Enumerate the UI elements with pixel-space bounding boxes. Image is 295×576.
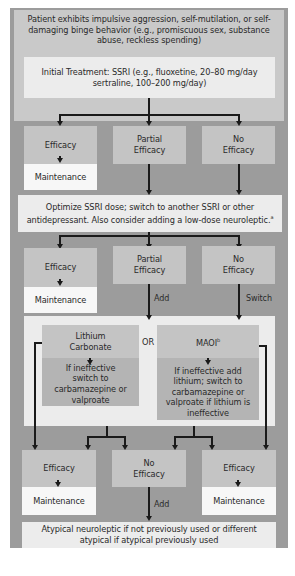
- no-efficacy-label: No Efficacy: [218, 254, 259, 275]
- connector: [59, 235, 239, 237]
- maintenance-label: Maintenance: [35, 172, 87, 183]
- arrow-icon: [87, 360, 93, 365]
- connector: [87, 436, 125, 438]
- connector: [148, 164, 150, 190]
- switch-label: Switch: [246, 294, 272, 305]
- add-label: Add: [154, 500, 169, 511]
- row1-maintenance-box: Maintenance: [24, 164, 97, 190]
- final-box: Atypical neuroleptic if not previously u…: [22, 522, 276, 548]
- maintenance-label: Maintenance: [35, 295, 87, 306]
- partial-efficacy-label: Partial Efficacy: [123, 254, 176, 275]
- arrow-icon: [146, 315, 152, 320]
- maoi-followup-box: If ineffective add lithium; switch to ca…: [157, 358, 259, 420]
- connector: [106, 426, 108, 436]
- lithium-label: Lithium Carbonate: [42, 331, 139, 352]
- optimize-text: Optimize SSRI dose; switch to another SS…: [27, 202, 271, 225]
- efficacy-label: Efficacy: [223, 463, 254, 474]
- connector: [148, 487, 150, 517]
- efficacy-label: Efficacy: [43, 463, 74, 474]
- lithium-box: Lithium Carbonate: [42, 325, 139, 358]
- maoi-box: MAOIb: [157, 325, 259, 358]
- initial-treatment-text: Initial Treatment: SSRI (e.g., fluoxetin…: [36, 67, 263, 88]
- efficacy-label: Efficacy: [45, 262, 76, 273]
- connector: [238, 164, 240, 190]
- row3-maintenance-left-box: Maintenance: [22, 487, 96, 515]
- efficacy-label: Efficacy: [45, 140, 76, 151]
- final-text: Atypical neuroleptic if not previously u…: [30, 524, 268, 545]
- connector: [59, 114, 239, 116]
- footnote-a: a: [270, 214, 273, 220]
- row2-partial-box: Partial Efficacy: [113, 246, 186, 284]
- lithium-followup-box: If ineffective switch to carbamazepine o…: [42, 358, 139, 406]
- lithium-followup-text: If ineffective switch to carbamazepine o…: [52, 363, 129, 405]
- presentation-text: Patient exhibits impulsive aggression, s…: [18, 14, 280, 46]
- footnote-b: b: [217, 337, 220, 343]
- connector: [265, 345, 267, 446]
- no-efficacy-label: No Efficacy: [218, 134, 259, 155]
- maoi-followup-text: If ineffective add lithium; switch to ca…: [161, 366, 255, 419]
- row3-no-box: No Efficacy: [112, 450, 186, 487]
- optimize-box: Optimize SSRI dose; switch to another SS…: [18, 195, 282, 232]
- row2-maintenance-box: Maintenance: [24, 287, 97, 313]
- maoi-label: MAOI: [196, 338, 217, 348]
- row2-no-box: No Efficacy: [202, 246, 275, 284]
- maintenance-label: Maintenance: [213, 496, 265, 507]
- initial-treatment-box: Initial Treatment: SSRI (e.g., fluoxetin…: [24, 57, 275, 98]
- connector: [174, 436, 212, 438]
- arrow-icon: [57, 158, 63, 163]
- connector: [238, 284, 240, 316]
- row1-no-box: No Efficacy: [202, 126, 275, 164]
- maintenance-label: Maintenance: [33, 496, 85, 507]
- partial-efficacy-label: Partial Efficacy: [123, 134, 176, 155]
- connector: [34, 342, 36, 446]
- row3-maintenance-right-box: Maintenance: [202, 487, 276, 515]
- no-efficacy-label: No Efficacy: [128, 458, 170, 479]
- connector: [148, 98, 150, 122]
- add-label: Add: [154, 294, 169, 305]
- arrow-icon: [146, 516, 152, 521]
- arrow-icon: [236, 315, 242, 320]
- or-label: OR: [138, 337, 158, 348]
- row1-partial-box: Partial Efficacy: [113, 126, 186, 164]
- connector: [148, 284, 150, 316]
- connector: [193, 426, 195, 436]
- arrow-icon: [205, 360, 211, 365]
- arrow-icon: [57, 281, 63, 286]
